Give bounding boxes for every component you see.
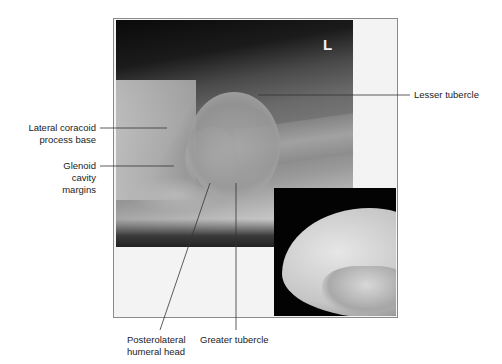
label-greater-tubercle: Greater tubercle: [200, 334, 269, 346]
label-line: process base: [10, 134, 96, 146]
label-lesser-tubercle: Lesser tubercle: [414, 89, 479, 101]
label-line: Lateral coracoid: [10, 122, 96, 134]
label-posterolateral-humeral-head: Posterolateral humeral head: [127, 334, 186, 358]
label-line: margins: [10, 184, 96, 196]
label-line: cavity: [10, 172, 96, 184]
label-line: humeral head: [127, 346, 186, 358]
leader-posterolateral: [160, 183, 210, 330]
label-lateral-coracoid: Lateral coracoid process base: [10, 122, 96, 146]
label-glenoid-cavity: Glenoid cavity margins: [10, 160, 96, 196]
label-line: Posterolateral: [127, 334, 186, 346]
label-line: Glenoid: [10, 160, 96, 172]
